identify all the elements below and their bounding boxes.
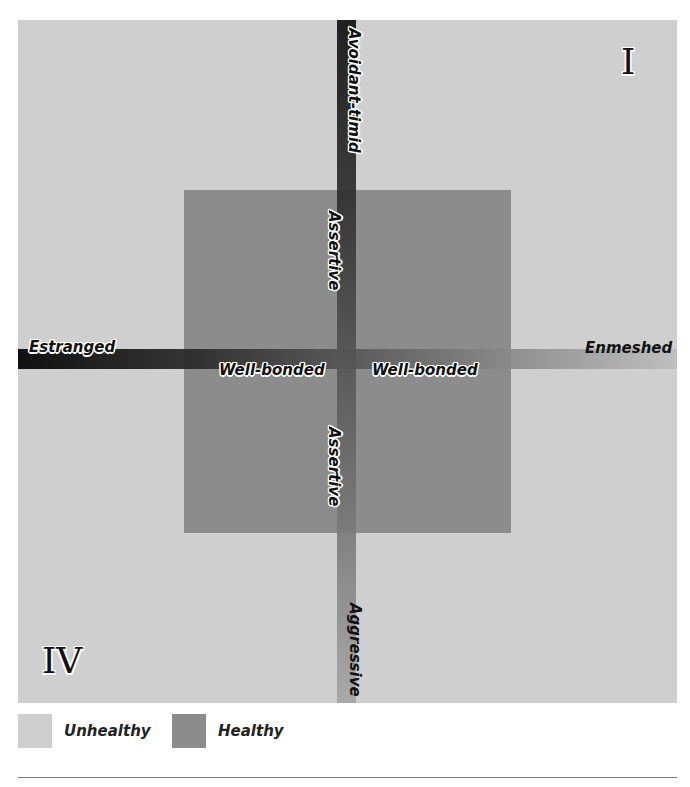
legend-label-healthy: Healthy [218,722,284,740]
legend-swatch-healthy [172,714,206,748]
legend-swatch-unhealthy [18,714,52,748]
axis-label-well-bonded-right: Well-bonded [372,363,478,378]
axis-label-assertive-lower: Assertive [326,427,341,506]
axis-label-avoidant-timid: Avoidant-timid [346,28,361,153]
axis-label-estranged: Estranged [29,340,115,355]
quadrant-label-i: I [621,44,635,80]
axis-label-enmeshed: Enmeshed [585,341,672,356]
axis-label-well-bonded-left: Well-bonded [219,363,325,378]
legend-label-unhealthy: Unhealthy [64,722,151,740]
axis-label-assertive-upper: Assertive [326,211,341,290]
quadrant-label-iv: IV [42,643,82,679]
axis-label-aggressive: Aggressive [347,603,362,697]
divider [18,777,677,778]
